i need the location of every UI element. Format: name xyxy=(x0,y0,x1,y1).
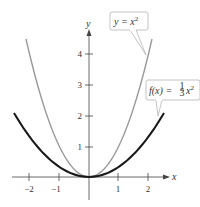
y-axis-arrow-icon xyxy=(87,29,92,36)
callout1-text: y = x xyxy=(113,16,135,27)
y-tick-label: 3 xyxy=(78,80,83,90)
x-tick-label: 2 xyxy=(146,184,151,194)
callout-f-one-third-x-squared: f(x) = 1 3 x2 xyxy=(146,80,200,116)
x-tick-label: −2 xyxy=(24,184,34,194)
svg-text:f(x) =: f(x) = xyxy=(149,85,172,97)
y-tick-label: 2 xyxy=(78,111,83,121)
axes xyxy=(12,29,170,200)
x-axis-label: x xyxy=(171,171,177,182)
x-tick-label: −1 xyxy=(51,184,61,194)
x-tick-label: 1 xyxy=(116,184,121,194)
graph: −2 −1 1 2 1 2 3 4 x y y = x2 f(x) = 1 3 … xyxy=(0,0,200,207)
callout2-text: f(x) = xyxy=(149,85,172,97)
y-tick-label: 1 xyxy=(78,142,83,152)
x-axis-arrow-icon xyxy=(163,175,170,180)
callout2-den: 3 xyxy=(180,87,185,98)
y-axis-label: y xyxy=(85,18,91,29)
callout-y-equals-x-squared: y = x2 xyxy=(110,12,148,55)
callout1-exp: 2 xyxy=(135,15,139,23)
y-tick-label: 4 xyxy=(78,49,83,59)
